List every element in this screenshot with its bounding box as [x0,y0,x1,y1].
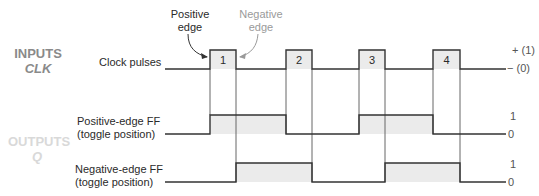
clock-low-level: − (0) [507,62,530,74]
clock-high-level: + (1) [512,44,535,56]
neg-ff-high-level: 1 [510,158,516,170]
negative-edge-arrow [240,34,258,57]
neg-ff-low-level: 0 [508,176,514,188]
pos-ff-label: Positive-edge FF (toggle position) [77,115,160,141]
ff-high-fills [210,115,460,182]
pos-ff-low-level: 0 [508,128,514,140]
clock-pulses-label: Clock pulses [99,56,161,69]
pos-ff-label-line1: Positive-edge FF [77,115,160,128]
negative-edge-line2: edge [236,21,286,34]
neg-ff-label-line1: Negative-edge FF [75,163,163,176]
positive-edge-arrow [188,34,207,57]
pos-ff-label-line2: (toggle position) [77,128,160,141]
negative-edge-line1: Negative [236,8,286,21]
neg-ff-label: Negative-edge FF (toggle position) [75,163,163,189]
positive-edge-line2: edge [167,21,213,34]
inputs-sub: CLK [12,61,64,76]
clock-pulse-fills [210,50,460,69]
pulse-number-1: 1 [210,54,236,67]
positive-edge-line1: Positive [167,8,213,21]
pulse-number-3: 3 [359,54,385,67]
inputs-section-label: INPUTS CLK [12,46,64,76]
neg-ff-label-line2: (toggle position) [75,176,163,189]
outputs-section-label: OUTPUTS Q [8,134,66,164]
pulse-number-2: 2 [286,54,312,67]
pulse-number-4: 4 [433,54,460,67]
inputs-title: INPUTS [12,46,64,61]
negative-edge-annotation: Negative edge [236,8,286,34]
positive-edge-annotation: Positive edge [167,8,213,34]
outputs-sub: Q [8,149,66,164]
outputs-title: OUTPUTS [8,134,66,149]
pos-ff-high-level: 1 [510,110,516,122]
